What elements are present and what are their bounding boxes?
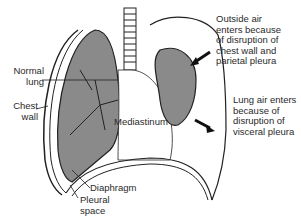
label-diaphragm: Diaphragm [90,183,136,194]
label-outside-air: Outside air enters because of disruption… [216,14,281,67]
trachea [124,8,136,70]
label-chest-wall: Chest wall [2,101,38,122]
label-pleural-space: Pleural space [80,195,110,216]
normal-lung [58,30,120,182]
label-lung-air: Lung air enters because of disruption of… [233,95,296,137]
label-normal-lung: Normal lung [4,66,44,87]
label-mediastinum: Mediastinum [114,117,168,128]
